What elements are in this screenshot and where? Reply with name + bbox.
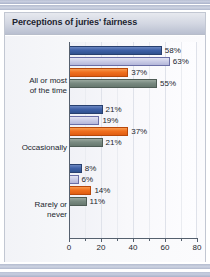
value-label-g0-s0: 58% [165, 46, 181, 55]
tick-label-20: 20 [97, 243, 106, 252]
bar-g1-s3 [69, 138, 103, 147]
decorative-band-bottom-inner [0, 264, 210, 269]
gridline-80 [196, 42, 197, 238]
gridline-minor-70 [181, 42, 182, 238]
value-label-g0-s2: 37% [131, 68, 147, 77]
value-label-g1-s3: 21% [106, 138, 122, 147]
tick-minor-50 [149, 239, 150, 241]
gridline-60 [165, 42, 166, 238]
bar-g0-s3 [69, 79, 157, 88]
value-label-g2-s0: 8% [85, 164, 97, 173]
bar-g0-s0 [69, 46, 162, 55]
category-axis-labels: All or most of the time Occasionally Rar… [5, 36, 69, 262]
bar-g0-s1 [69, 57, 170, 66]
category-label-rarely-or-never: Rarely or never [35, 200, 67, 219]
plot-area: 58% 63% 37% 55% 21% 19% 37% 21% 8% 6% 14… [69, 42, 197, 238]
bar-g1-s1 [69, 116, 99, 125]
tick-0 [69, 239, 70, 242]
category-label-all-or-most: All or most of the time [29, 76, 67, 95]
value-label-g2-s3: 11% [90, 197, 105, 206]
tick-label-40: 40 [129, 243, 138, 252]
value-label-g2-s1: 6% [82, 175, 94, 184]
category-label-occasionally: Occasionally [22, 143, 67, 153]
tick-minor-70 [181, 239, 182, 241]
bar-g2-s1 [69, 175, 79, 184]
plot-wrapper: All or most of the time Occasionally Rar… [5, 36, 205, 262]
chart-title: Perceptions of juries' fairness [12, 17, 137, 27]
bar-g2-s0 [69, 164, 82, 173]
tick-label-60: 60 [161, 243, 170, 252]
decorative-band-bottom-outer [0, 272, 210, 277]
tick-80 [197, 239, 198, 242]
bar-g0-s2 [69, 68, 128, 77]
bar-g1-s0 [69, 105, 103, 114]
value-label-g0-s1: 63% [173, 57, 189, 66]
tick-20 [101, 239, 102, 242]
chart-title-bar: Perceptions of juries' fairness [5, 13, 205, 35]
bar-g1-s2 [69, 127, 128, 136]
y-axis-line [69, 42, 70, 238]
tick-60 [165, 239, 166, 242]
tick-label-0: 0 [67, 243, 71, 252]
chart-screenshot: Perceptions of juries' fairness All or m… [0, 0, 210, 277]
value-label-g1-s1: 19% [102, 116, 118, 125]
value-label-g0-s3: 55% [160, 79, 176, 88]
tick-minor-10 [85, 239, 86, 241]
bar-g2-s3 [69, 197, 87, 206]
tick-label-80: 80 [193, 243, 202, 252]
value-label-g1-s2: 37% [131, 127, 147, 136]
chart-card: Perceptions of juries' fairness All or m… [4, 12, 206, 262]
value-label-g1-s0: 21% [106, 105, 122, 114]
tick-minor-30 [117, 239, 118, 241]
tick-40 [133, 239, 134, 242]
decorative-band-top-inner [0, 5, 210, 10]
bar-g2-s2 [69, 186, 91, 195]
decorative-band-top-outer [0, 0, 210, 4]
value-label-g2-s2: 14% [94, 186, 110, 195]
gridline-minor-50 [149, 42, 150, 238]
